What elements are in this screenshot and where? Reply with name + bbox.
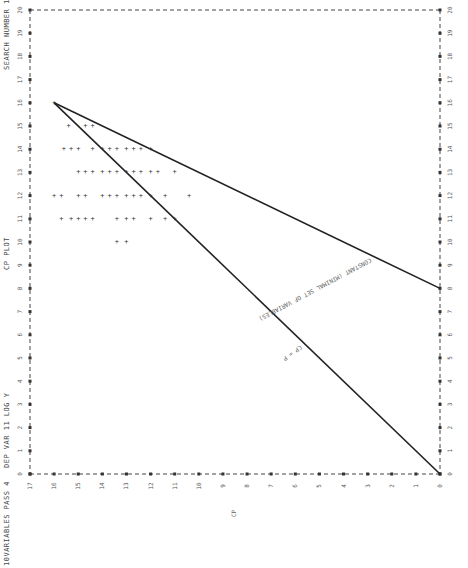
p-tick-mark	[29, 449, 32, 452]
data-point: +	[132, 215, 136, 223]
data-point: +	[115, 168, 119, 176]
p-tick-label-right: 14	[446, 145, 453, 153]
cp-tick-mark	[197, 473, 200, 476]
cp-tick-mark	[318, 473, 321, 476]
data-point: +	[124, 168, 128, 176]
cp-equals-p-label: CP = P	[282, 344, 304, 363]
p-tick-mark	[29, 426, 32, 429]
p-tick-label-left: 13	[16, 168, 23, 176]
p-tick-label-right: 16	[446, 99, 453, 107]
p-tick-label-left: 10	[16, 238, 23, 246]
data-point: +	[83, 168, 87, 176]
cp-tick-label: 14	[98, 482, 105, 490]
data-point: +	[115, 215, 119, 223]
data-point: +	[59, 215, 63, 223]
data-point: +	[91, 168, 95, 176]
p-tick-mark	[29, 32, 32, 35]
p-tick-mark	[439, 426, 442, 429]
p-tick-mark	[29, 357, 32, 360]
cp-equals-p-line	[54, 103, 440, 474]
p-tick-mark	[439, 78, 442, 81]
p-tick-label-left: 20	[16, 6, 23, 14]
p-tick-mark	[29, 9, 32, 12]
p-tick-label-right: 12	[446, 192, 453, 200]
p-tick-label-left: 3	[16, 402, 23, 406]
p-tick-label-left: 1	[16, 449, 23, 453]
cp-tick-label: 9	[219, 484, 226, 488]
data-point: +	[139, 192, 143, 200]
cp-tick-label: 5	[315, 484, 322, 488]
p-tick-mark	[439, 55, 442, 58]
cp-tick-label: 6	[291, 484, 298, 488]
data-point: +	[173, 215, 177, 223]
data-point: +	[83, 192, 87, 200]
cp-tick-mark	[77, 473, 80, 476]
p-tick-label-right: 19	[446, 29, 453, 37]
p-tick-label-right: 6	[446, 333, 453, 337]
data-point: +	[163, 215, 167, 223]
cp-tick-mark	[53, 473, 56, 476]
p-tick-mark	[439, 9, 442, 12]
data-point: +	[187, 192, 191, 200]
p-tick-label-right: 11	[446, 215, 453, 223]
cp-tick-mark	[342, 473, 345, 476]
data-point: +	[76, 192, 80, 200]
cp-tick-label: 0	[436, 484, 443, 488]
cp-tick-label: 8	[243, 484, 250, 488]
p-tick-label-left: 18	[16, 52, 23, 60]
cp-tick-mark	[294, 473, 297, 476]
p-tick-mark	[439, 449, 442, 452]
p-tick-mark	[29, 380, 32, 383]
data-point: +	[124, 215, 128, 223]
p-tick-mark	[29, 241, 32, 244]
p-tick-mark	[29, 125, 32, 128]
p-tick-mark	[439, 310, 442, 313]
data-point: +	[156, 168, 160, 176]
p-tick-label-left: 7	[16, 309, 23, 313]
p-tick-mark	[439, 217, 442, 220]
p-tick-label-right: 13	[446, 168, 453, 176]
cp-tick-label: 12	[147, 482, 154, 490]
p-tick-label-right: 7	[446, 309, 453, 313]
data-point: +	[124, 238, 128, 246]
data-point: +	[115, 238, 119, 246]
p-tick-mark	[29, 78, 32, 81]
p-tick-label-left: 16	[16, 99, 23, 107]
data-point: +	[139, 145, 143, 153]
data-point: +	[100, 192, 104, 200]
p-tick-label-left: 6	[16, 333, 23, 337]
p-tick-label-right: 9	[446, 263, 453, 267]
cp-tick-mark	[246, 473, 249, 476]
p-tick-mark	[439, 403, 442, 406]
data-point: +	[91, 145, 95, 153]
cp-tick-mark	[29, 473, 32, 476]
p-tick-mark	[439, 148, 442, 151]
p-tick-label-right: 2	[446, 425, 453, 429]
p-tick-label-right: 5	[446, 356, 453, 360]
p-tick-label-left: 19	[16, 29, 23, 37]
p-tick-label-left: 17	[16, 76, 23, 84]
data-point: +	[107, 168, 111, 176]
cp-plot: 0011223344556677889910101111121213131414…	[0, 0, 468, 568]
data-point: +	[148, 215, 152, 223]
p-tick-label-right: 18	[446, 52, 453, 60]
p-tick-mark	[29, 287, 32, 290]
cp-tick-label: 16	[50, 482, 57, 490]
data-point: +	[107, 145, 111, 153]
p-tick-mark	[439, 333, 442, 336]
cp-tick-mark	[390, 473, 393, 476]
data-point: +	[91, 122, 95, 130]
cp-tick-label: 7	[267, 484, 274, 488]
p-tick-mark	[439, 241, 442, 244]
data-point: +	[52, 192, 56, 200]
p-tick-label-left: 11	[16, 215, 23, 223]
p-tick-label-right: 20	[446, 6, 453, 14]
constant-line-label: CONSTANT (MINIMAL SET OF VARIABLES)	[258, 257, 373, 323]
p-tick-label-left: 14	[16, 145, 23, 153]
p-tick-mark	[439, 264, 442, 267]
cp-tick-label: 15	[74, 482, 81, 490]
data-point: +	[132, 145, 136, 153]
data-point: +	[66, 122, 70, 130]
data-point: +	[76, 168, 80, 176]
cp-axis-label: CP	[230, 510, 237, 517]
